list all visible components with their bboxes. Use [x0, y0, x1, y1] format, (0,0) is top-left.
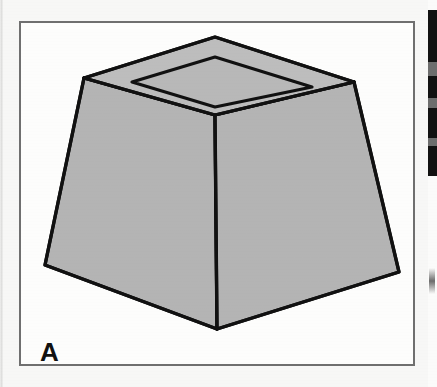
frustum-right-face	[215, 82, 399, 329]
figure-label: A	[40, 339, 59, 365]
adjacent-figure-block	[428, 10, 437, 62]
frustum-front-vertical-edge	[215, 115, 217, 329]
adjacent-figure-block	[428, 76, 437, 98]
adjacent-figure-gray-block	[428, 62, 437, 76]
adjacent-figure-block	[428, 108, 437, 138]
adjacent-figure-gray-block	[428, 98, 437, 108]
page-root: A	[0, 0, 437, 387]
frustum-left-face	[45, 78, 217, 329]
figure-panel: A	[19, 21, 415, 366]
adjacent-figure-smudge	[429, 268, 435, 294]
frustum-illustration	[21, 23, 413, 364]
adjacent-figure-block	[428, 146, 437, 176]
adjacent-figure-edge	[428, 0, 437, 387]
adjacent-figure-gray-block	[428, 138, 437, 146]
scan-left-edge	[0, 0, 3, 387]
